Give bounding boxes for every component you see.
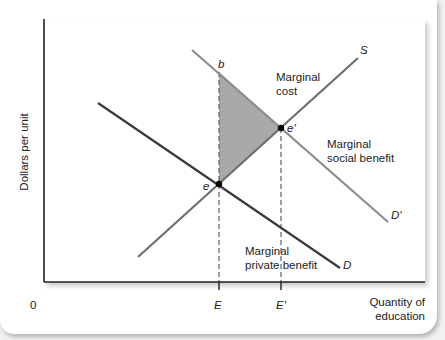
point-e-prime <box>278 125 284 131</box>
welfare-loss-triangle <box>219 72 281 184</box>
point-b-label: b <box>218 57 224 71</box>
marginal-social-benefit-label-line1: Marginal <box>327 137 371 151</box>
private-demand-symbol: D <box>343 258 351 272</box>
origin-label: 0 <box>30 298 36 312</box>
x-axis-label-line2: education <box>362 309 425 323</box>
tick-label-E: E <box>214 298 222 312</box>
tick-label-E-prime: E' <box>276 298 286 312</box>
marginal-private-benefit-label-line2: private benefit <box>245 258 317 272</box>
marginal-social-benefit-label-line2: social benefit <box>327 151 394 165</box>
point-e-prime-label: e' <box>287 121 296 135</box>
social-demand-symbol: D' <box>391 208 402 222</box>
diagram-stage: Dollars per unit 0 E E' Quantity of educ… <box>0 0 445 340</box>
marginal-private-benefit-label-line1: Marginal <box>245 244 289 258</box>
y-axis-label: Dollars per unit <box>18 113 30 190</box>
point-e <box>216 181 222 187</box>
chart-svg <box>0 0 445 340</box>
supply-symbol: S <box>360 43 368 57</box>
marginal-cost-label-line2: cost <box>276 84 297 98</box>
marginal-cost-curve <box>138 58 358 257</box>
point-e-label: e <box>203 179 209 193</box>
x-axis-label-line1: Quantity of <box>362 295 425 309</box>
marginal-cost-label-line1: Marginal <box>276 70 320 84</box>
